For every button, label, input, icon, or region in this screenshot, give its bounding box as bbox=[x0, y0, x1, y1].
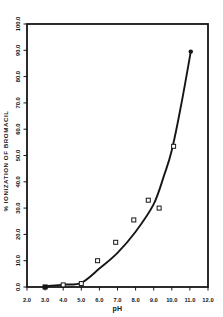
x-tick-label: 12.0 bbox=[202, 297, 213, 303]
y-tick-label: 100.0 bbox=[15, 17, 21, 32]
y-tick-label: 10.0 bbox=[15, 255, 21, 266]
data-point-open-square bbox=[96, 259, 100, 263]
data-point-open-square bbox=[114, 240, 118, 244]
x-tick-label: 3.0 bbox=[41, 297, 49, 303]
data-point-filled-dot bbox=[189, 49, 193, 53]
y-tick-label: 80.0 bbox=[15, 71, 21, 82]
y-tick-label: 30.0 bbox=[15, 202, 21, 213]
x-tick-label: 2.0 bbox=[23, 297, 31, 303]
data-point-open-square bbox=[146, 198, 150, 202]
ionization-chart: 2.03.04.05.06.07.08.09.010.011.012.00.01… bbox=[0, 0, 223, 317]
y-tick-label: 0.0 bbox=[15, 283, 21, 291]
generated-chart-layer: 2.03.04.05.06.07.08.09.010.011.012.00.01… bbox=[15, 17, 214, 303]
data-point-open-square bbox=[132, 218, 136, 222]
x-axis-title: pH bbox=[112, 305, 122, 313]
fitted-curve bbox=[45, 52, 191, 287]
y-tick-label: 60.0 bbox=[15, 124, 21, 135]
x-tick-label: 8.0 bbox=[132, 297, 140, 303]
x-tick-label: 9.0 bbox=[150, 297, 158, 303]
y-tick-label: 70.0 bbox=[15, 97, 21, 108]
bromacil-ionization-figure: 2.03.04.05.06.07.08.09.010.011.012.00.01… bbox=[0, 0, 223, 317]
data-point-open-square bbox=[157, 206, 161, 210]
x-tick-label: 5.0 bbox=[77, 297, 85, 303]
data-point-open-square bbox=[172, 144, 176, 148]
y-tick-label: 90.0 bbox=[15, 45, 21, 56]
x-tick-label: 7.0 bbox=[113, 297, 121, 303]
data-point-filled-square bbox=[43, 285, 47, 289]
y-tick-label: 40.0 bbox=[15, 176, 21, 187]
x-tick-label: 11.0 bbox=[184, 297, 195, 303]
y-tick-label: 50.0 bbox=[15, 150, 21, 161]
data-point-open-square bbox=[61, 283, 65, 287]
data-point-open-square bbox=[79, 282, 83, 286]
plot-frame bbox=[27, 24, 208, 287]
x-tick-label: 10.0 bbox=[166, 297, 177, 303]
y-axis-title: % IONIZATION OF BROMACIL bbox=[2, 110, 9, 211]
x-tick-label: 6.0 bbox=[95, 297, 103, 303]
y-tick-label: 20.0 bbox=[15, 229, 21, 240]
x-tick-label: 4.0 bbox=[59, 297, 67, 303]
